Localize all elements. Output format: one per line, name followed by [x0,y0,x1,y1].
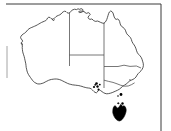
occurrence-dot [99,84,101,86]
australia-map-canvas [0,0,171,131]
tasmania-north-islet [117,103,119,104]
occurrence-dot [121,102,123,104]
occurrence-dot [120,93,123,96]
occurrence-dot [98,89,100,91]
tasmania-filled [113,104,126,121]
occurrence-dot [93,86,95,88]
distribution-map-figure: Outline map of Australia with state and … [0,0,171,131]
shaded-range-tasmania [113,103,126,121]
occurrence-dot [94,84,96,86]
occurrence-dot [96,85,98,87]
occurrence-dot [117,95,119,97]
mainland-coastline [21,9,144,94]
mainland-australia [21,9,144,94]
